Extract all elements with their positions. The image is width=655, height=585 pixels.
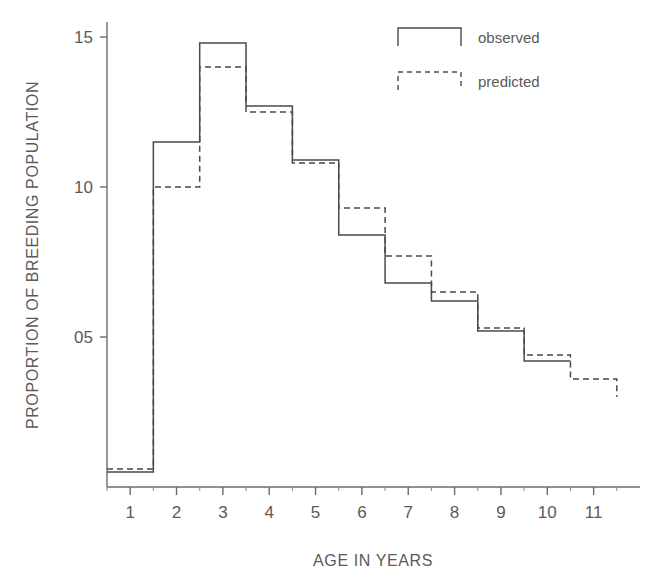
x-axis-group: 1234567891011 AGE IN YEARS <box>107 487 640 569</box>
y-tick-label: 15 <box>74 28 93 47</box>
legend-label-predicted: predicted <box>478 73 540 90</box>
legend-label-observed: observed <box>478 29 540 46</box>
y-tick-label: 10 <box>74 178 93 197</box>
x-tick-label: 8 <box>450 503 459 522</box>
chart-page: 051015 PROPORTION OF BREEDING POPULATION… <box>0 0 655 585</box>
y-tick-label: 05 <box>74 328 93 347</box>
plot-area <box>107 43 617 472</box>
legend-swatch-predicted <box>398 72 461 90</box>
x-tick-label: 3 <box>218 503 227 522</box>
x-tick-label: 2 <box>172 503 181 522</box>
x-tick-label: 5 <box>311 503 320 522</box>
y-tick-marks <box>100 37 107 337</box>
series-line-predicted <box>107 67 617 469</box>
x-tick-label: 7 <box>404 503 413 522</box>
x-tick-labels: 1234567891011 <box>125 503 602 522</box>
x-tick-label: 4 <box>264 503 273 522</box>
x-tick-label: 10 <box>538 503 557 522</box>
y-axis-title: PROPORTION OF BREEDING POPULATION <box>24 81 41 429</box>
x-tick-label: 1 <box>125 503 134 522</box>
y-axis-group: 051015 PROPORTION OF BREEDING POPULATION <box>24 22 107 487</box>
y-tick-labels: 051015 <box>74 28 93 347</box>
x-axis-title: AGE IN YEARS <box>313 552 433 569</box>
x-tick-label: 9 <box>496 503 505 522</box>
x-tick-label: 11 <box>585 503 603 522</box>
legend: observed predicted <box>398 28 540 90</box>
step-chart: 051015 PROPORTION OF BREEDING POPULATION… <box>0 0 655 585</box>
legend-swatch-observed <box>398 28 461 46</box>
series-line-observed <box>107 43 570 472</box>
x-tick-label: 6 <box>357 503 366 522</box>
x-tick-marks <box>107 487 617 495</box>
